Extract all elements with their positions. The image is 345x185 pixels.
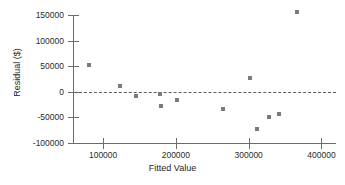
y-axis-title: Residual ($) [13, 27, 22, 119]
data-point [118, 84, 122, 88]
y-tick-label: 150000 [36, 11, 64, 20]
data-point [267, 115, 271, 119]
data-point [295, 10, 299, 14]
y-tick-label: 100000 [36, 36, 64, 45]
data-point [248, 76, 252, 80]
data-point [87, 63, 91, 67]
data-point [277, 112, 281, 116]
x-axis-line [78, 143, 336, 144]
x-tick-label: 200000 [162, 151, 190, 160]
data-point [159, 104, 163, 108]
data-point [134, 94, 138, 98]
x-tick-label: 400000 [307, 151, 335, 160]
y-tick-label: -100000 [33, 139, 64, 148]
x-axis-title: Fitted Value [0, 164, 345, 173]
data-point [221, 107, 225, 111]
data-point [255, 127, 259, 131]
plot-area [74, 10, 336, 143]
data-point [175, 98, 179, 102]
y-tick-label: 50000 [40, 62, 64, 71]
residual-scatter-chart: 150000100000500000-50000-100000 10000020… [0, 0, 345, 185]
y-tick [68, 143, 79, 144]
y-tick-label: 0 [59, 88, 64, 97]
y-tick-label: -50000 [38, 113, 64, 122]
x-tick-label: 300000 [234, 151, 262, 160]
data-point [158, 92, 162, 96]
x-tick-label: 100000 [89, 151, 117, 160]
